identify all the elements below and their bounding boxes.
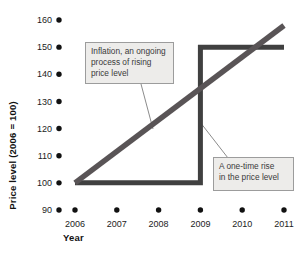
y-axis-title: Price level (2006 = 100) (7, 95, 20, 217)
y-tick-label: 100 (37, 178, 52, 188)
x-axis-title: Year (63, 232, 84, 243)
x-tick-label: 2009 (190, 219, 210, 229)
x-tick-label: 2006 (65, 219, 85, 229)
x-tick-label: 2010 (232, 219, 252, 229)
chart-canvas: 9010011012013014015016020062007200820092… (0, 0, 307, 257)
y-tick-label: 150 (37, 42, 52, 52)
x-tick-label: 2011 (274, 219, 293, 229)
y-tick-dot (56, 17, 61, 22)
x-tick-label: 2007 (107, 219, 127, 229)
x-tick-dot (240, 207, 245, 212)
annotation-leader-line (200, 122, 228, 158)
x-tick-label: 2008 (149, 219, 169, 229)
y-tick-label: 130 (37, 97, 52, 107)
y-tick-dot (56, 126, 61, 131)
y-tick-label: 140 (37, 69, 52, 79)
annotation-inflation-box: Inflation, an ongoing process of rising … (85, 42, 174, 84)
y-tick-dot (56, 180, 61, 185)
x-tick-dot (156, 207, 161, 212)
x-tick-dot (281, 207, 286, 212)
y-tick-label: 110 (38, 151, 52, 161)
x-tick-dot (198, 207, 203, 212)
y-tick-dot (56, 207, 61, 212)
price-level-chart: 9010011012013014015016020062007200820092… (0, 0, 307, 257)
y-tick-label: 90 (42, 205, 52, 215)
y-tick-dot (56, 72, 61, 77)
y-tick-label: 120 (37, 124, 52, 134)
annotation-one-time-box: A one-time rise in the price level (213, 157, 294, 191)
x-tick-dot (72, 207, 77, 212)
y-tick-dot (56, 99, 61, 104)
y-tick-dot (56, 44, 61, 49)
y-tick-dot (56, 153, 61, 158)
y-tick-label: 160 (37, 15, 52, 25)
x-tick-dot (114, 207, 119, 212)
